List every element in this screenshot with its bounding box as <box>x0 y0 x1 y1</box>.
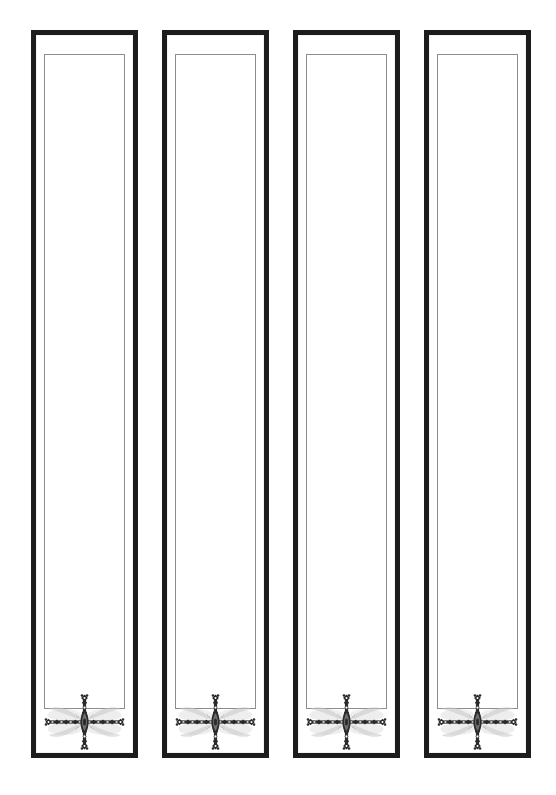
decorative-panel <box>31 30 138 758</box>
panel-inset-rectangle <box>437 54 518 709</box>
panel-inset-rectangle <box>175 54 256 709</box>
ornate-cross-ornament <box>431 693 524 751</box>
ornate-cross-ornament <box>300 693 393 751</box>
decorative-panel <box>424 30 531 758</box>
decorative-panel <box>293 30 400 758</box>
decorative-panel <box>162 30 269 758</box>
ornate-cross-ornament <box>38 693 131 751</box>
panel-inset-rectangle <box>44 54 125 709</box>
panel-set-canvas <box>0 0 556 795</box>
ornate-cross-ornament <box>169 693 262 751</box>
panel-inset-rectangle <box>306 54 387 709</box>
